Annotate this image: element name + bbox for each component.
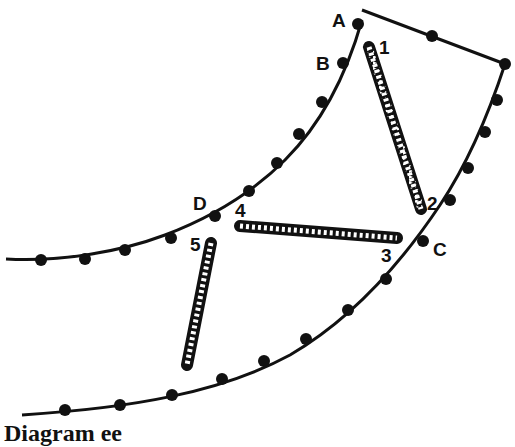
element-label-1: 1: [379, 37, 390, 58]
element-label-5: 5: [190, 234, 201, 255]
spring-4-3: [240, 226, 397, 238]
outer-boundary-curve: [22, 10, 511, 416]
point-label-a: A: [332, 10, 346, 31]
element-label-3: 3: [381, 245, 392, 266]
diagram-caption: Diagram ee: [4, 420, 122, 447]
point-label-d: D: [193, 193, 207, 214]
element-label-4: 4: [235, 200, 246, 221]
spring-5: [187, 243, 211, 365]
point-label-b: B: [316, 53, 330, 74]
point-label-c: C: [433, 239, 447, 260]
element-label-2: 2: [427, 193, 438, 214]
